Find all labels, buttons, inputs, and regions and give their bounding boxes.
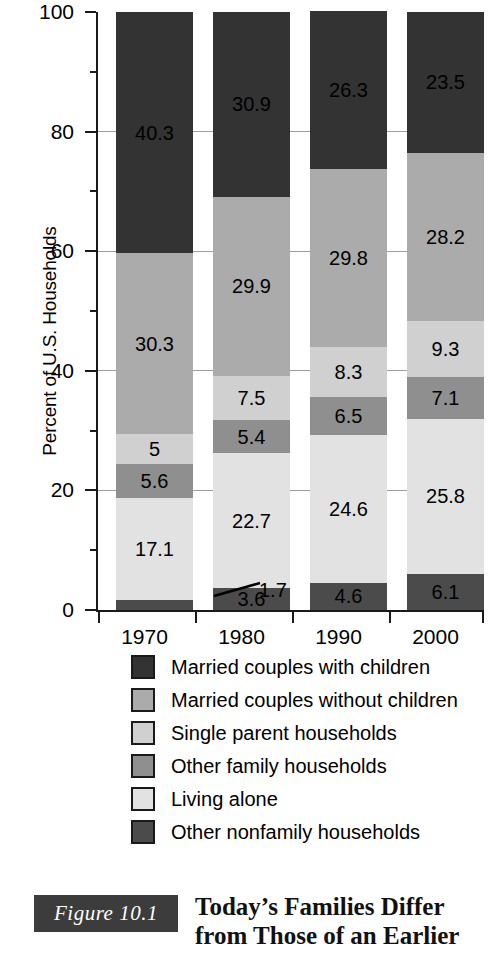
- y-tick-minor: [90, 71, 96, 73]
- bar-segment: 17.1: [116, 498, 193, 600]
- bar-segment-value: 7.5: [238, 388, 266, 408]
- x-axis-line: [96, 610, 484, 612]
- legend-item: Married couples without children: [0, 683, 502, 716]
- bar-segment-value: 24.6: [329, 499, 368, 519]
- legend-item: Married couples with children: [0, 650, 502, 683]
- x-tick: [292, 612, 294, 623]
- y-tick-major: [85, 250, 96, 252]
- bar-segment-value: 6.5: [335, 406, 363, 426]
- x-tick: [195, 612, 197, 623]
- legend-swatch-icon: [131, 721, 155, 745]
- bar-segment: 22.7: [213, 453, 290, 589]
- y-tick-major: [85, 609, 96, 611]
- y-tick-major: [85, 11, 96, 13]
- legend-label: Married couples without children: [171, 690, 458, 710]
- x-tick: [482, 612, 484, 623]
- bar-segment-value: 7.1: [432, 388, 460, 408]
- x-tick-label: 1970: [96, 626, 193, 647]
- bar-segment: 5.6: [116, 464, 193, 497]
- bar-segment: 28.2: [407, 153, 484, 322]
- y-tick-minor: [90, 549, 96, 551]
- x-tick: [389, 612, 391, 623]
- x-tick: [98, 612, 100, 623]
- legend-label: Married couples with children: [171, 657, 430, 677]
- legend-swatch-icon: [131, 655, 155, 679]
- y-tick-major: [85, 131, 96, 133]
- legend-swatch-icon: [131, 754, 155, 778]
- plot-area: 020406080100 1970198019902000 1.717.15.6…: [96, 12, 484, 612]
- bar-segment-value: 29.8: [329, 248, 368, 268]
- bar-segment: 7.5: [213, 376, 290, 421]
- y-tick-label: 100: [4, 1, 74, 22]
- bar-column: 6.125.87.19.328.223.5: [407, 12, 484, 610]
- callout-leader-line: [214, 582, 262, 598]
- y-tick-label: 80: [4, 121, 74, 142]
- legend-label: Living alone: [171, 789, 278, 809]
- bar-column: 1.717.15.6530.340.3: [116, 12, 193, 610]
- legend-item: Other family households: [0, 749, 502, 782]
- y-tick-minor: [90, 430, 96, 432]
- bar-column: 4.624.66.58.329.826.3: [310, 12, 387, 610]
- bar-segment: 1.7: [116, 600, 193, 610]
- bar-segment: 26.3: [310, 11, 387, 168]
- chart-legend: Married couples with childrenMarried cou…: [0, 650, 502, 848]
- bar-segment: 8.3: [310, 347, 387, 397]
- x-tick-label: 1980: [193, 626, 290, 647]
- bar-segment: 6.1: [407, 574, 484, 610]
- bar-segment: 30.3: [116, 253, 193, 434]
- legend-label: Single parent households: [171, 723, 397, 743]
- bar-segment-value: 22.7: [232, 511, 271, 531]
- caption-line-1: Today’s Families Differ: [195, 892, 459, 921]
- bar-segment: 7.1: [407, 377, 484, 419]
- bar-segment-value: 5: [149, 439, 160, 459]
- bar-segment-value: 26.3: [329, 80, 368, 100]
- legend-label: Other family households: [171, 756, 387, 776]
- callout-value-1970: 1.7: [259, 580, 287, 600]
- bar-segment: 5: [116, 434, 193, 464]
- legend-item: Living alone: [0, 782, 502, 815]
- bar-segment: 6.5: [310, 397, 387, 436]
- y-tick-label: 40: [4, 360, 74, 381]
- bar-segment-value: 25.8: [426, 486, 465, 506]
- caption-line-2: from Those of an Earlier: [195, 921, 459, 950]
- legend-item: Single parent households: [0, 716, 502, 749]
- bar-segment-value: 9.3: [432, 339, 460, 359]
- bar-segment: 23.5: [407, 12, 484, 153]
- bar-segment: 40.3: [116, 12, 193, 253]
- bar-segment-value: 5.4: [238, 427, 266, 447]
- bar-segment-value: 28.2: [426, 227, 465, 247]
- x-tick-label: 2000: [387, 626, 484, 647]
- y-tick-minor: [90, 190, 96, 192]
- y-tick-major: [85, 370, 96, 372]
- bar-segment-value: 40.3: [135, 123, 174, 143]
- bar-segment-value: 8.3: [335, 362, 363, 382]
- bar-segment: 5.4: [213, 420, 290, 452]
- bar-column: 3.622.75.47.529.930.9: [213, 12, 290, 610]
- stacked-bar-chart: Percent of U.S. Households 020406080100 …: [0, 0, 502, 640]
- y-tick-major: [85, 489, 96, 491]
- bar-segment-value: 17.1: [135, 539, 174, 559]
- bar-segment: 25.8: [407, 419, 484, 573]
- bar-segment: 30.9: [213, 12, 290, 197]
- bar-segment: 29.8: [310, 169, 387, 347]
- bar-segment: 9.3: [407, 321, 484, 377]
- legend-swatch-icon: [131, 820, 155, 844]
- bar-segment-value: 30.9: [232, 94, 271, 114]
- bar-segment: 29.9: [213, 197, 290, 376]
- bar-segment: 4.6: [310, 583, 387, 611]
- y-axis-line: [96, 12, 98, 612]
- figure-caption: Figure 10.1 Today’s Families Differ from…: [0, 892, 502, 950]
- y-tick-label: 20: [4, 479, 74, 500]
- bar-segment-value: 30.3: [135, 334, 174, 354]
- legend-label: Other nonfamily households: [171, 822, 420, 842]
- figure-number-badge: Figure 10.1: [34, 895, 178, 932]
- bar-segment-value: 4.6: [335, 586, 363, 606]
- bar-segment-value: 6.1: [432, 582, 460, 602]
- legend-item: Other nonfamily households: [0, 815, 502, 848]
- x-tick-label: 1990: [290, 626, 387, 647]
- legend-swatch-icon: [131, 688, 155, 712]
- y-tick-label: 0: [4, 599, 74, 620]
- bar-segment-value: 5.6: [141, 471, 169, 491]
- bar-segment-value: 29.9: [232, 276, 271, 296]
- y-tick-minor: [90, 310, 96, 312]
